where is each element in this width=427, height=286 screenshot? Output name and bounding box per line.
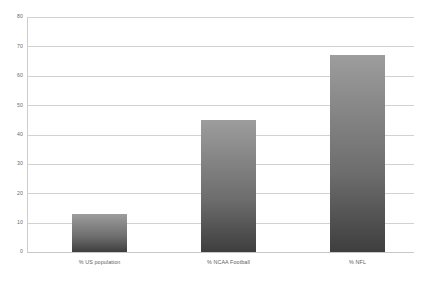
y-axis-tick-label: 10: [3, 220, 23, 225]
y-axis-tick-labels: 01020304050607080: [0, 0, 23, 286]
x-axis-category-label: % NFL: [293, 259, 422, 266]
bar-chart: 01020304050607080 % US population% NCAA …: [0, 0, 427, 286]
y-axis-tick-label: 80: [3, 14, 23, 19]
x-axis-category-label: % US population: [35, 259, 164, 266]
gridline: [27, 17, 414, 18]
x-axis-category-labels: % US population% NCAA Football% NFL: [27, 259, 414, 273]
y-axis-tick-label: 30: [3, 161, 23, 166]
axis-baseline: [27, 252, 414, 253]
bar: [330, 55, 385, 252]
y-axis-tick-label: 40: [3, 132, 23, 137]
bar: [72, 214, 127, 252]
bar: [201, 120, 256, 252]
y-axis-tick-label: 50: [3, 103, 23, 108]
y-axis-tick-label: 60: [3, 73, 23, 78]
y-axis-tick-label: 0: [3, 249, 23, 254]
y-axis-tick-label: 20: [3, 191, 23, 196]
gridline: [27, 46, 414, 47]
y-axis-tick-label: 70: [3, 44, 23, 49]
plot-area: [27, 17, 414, 252]
x-axis-category-label: % NCAA Football: [164, 259, 293, 266]
